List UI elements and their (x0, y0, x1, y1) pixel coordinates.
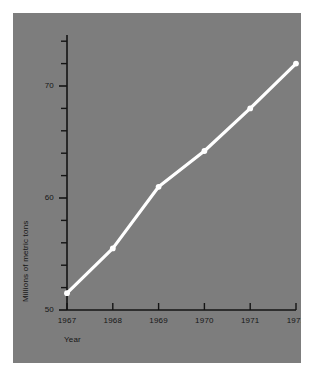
x-tick-label-1969: 1969 (142, 316, 176, 325)
data-point (64, 290, 70, 296)
x-axis-title: Year (64, 335, 81, 344)
y-minor-ticks (61, 41, 67, 287)
chart-panel: 70 60 50 1967 1968 1969 1970 1971 1972 Y… (13, 13, 301, 363)
chart-canvas (13, 13, 301, 363)
y-tick-label-50: 50 (32, 305, 54, 314)
data-point (293, 61, 299, 67)
x-ticks (67, 303, 296, 310)
y-tick-label-70: 70 (32, 81, 54, 90)
x-tick-label-1968: 1968 (96, 316, 130, 325)
figure: 70 60 50 1967 1968 1969 1970 1971 1972 Y… (0, 0, 314, 379)
plot-area: 70 60 50 1967 1968 1969 1970 1971 1972 Y… (13, 13, 301, 363)
data-point (156, 184, 162, 190)
data-point (202, 148, 208, 154)
x-tick-label-1972: 1972 (279, 316, 301, 325)
data-point (247, 106, 253, 112)
data-line (67, 64, 296, 294)
y-major-ticks (59, 86, 67, 310)
y-tick-label-60: 60 (32, 193, 54, 202)
x-tick-label-1967: 1967 (50, 316, 84, 325)
data-point (110, 246, 116, 252)
x-tick-label-1970: 1970 (187, 316, 221, 325)
x-tick-label-1971: 1971 (233, 316, 267, 325)
y-axis-title: Millions of metric tons (21, 220, 30, 302)
